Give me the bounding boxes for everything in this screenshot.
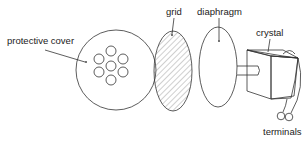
grid: [154, 31, 192, 111]
dot-diaphragm: [218, 40, 220, 42]
protective-cover: [76, 30, 156, 110]
label-terminals: terminals: [263, 126, 302, 137]
microphone-diagram: protective cover grid diaphragm crystal: [0, 0, 308, 141]
dot-protective-cover: [85, 61, 87, 63]
label-crystal: crystal: [256, 27, 283, 38]
label-diaphragm: diaphragm: [197, 6, 242, 17]
dot-grid: [171, 34, 173, 36]
diaphragm: [199, 27, 237, 107]
label-protective-cover: protective cover: [7, 35, 74, 46]
leader-protective-cover: [45, 50, 85, 62]
rod: [237, 66, 260, 75]
crystal: [247, 50, 298, 99]
label-grid: grid: [166, 6, 182, 17]
